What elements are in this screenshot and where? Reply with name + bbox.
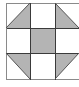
filled-shapes: [6, 3, 79, 79]
quilt-block-diagram: [0, 0, 79, 87]
center-square: [30, 28, 55, 53]
